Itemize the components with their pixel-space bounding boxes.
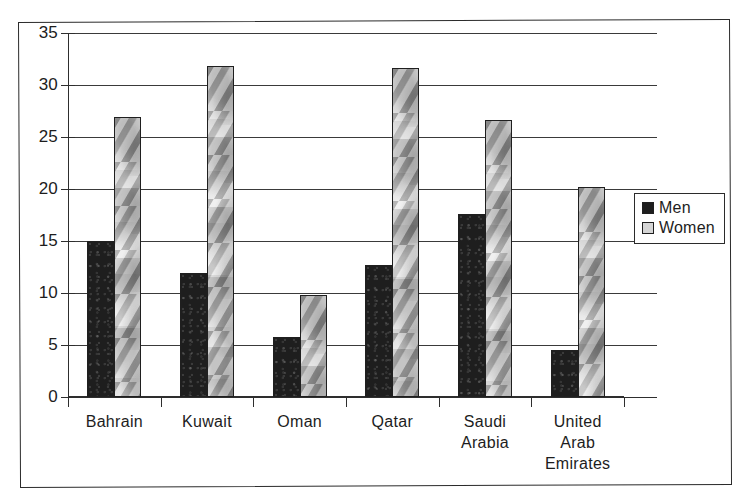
y-axis-label-15: 15: [22, 232, 58, 249]
legend-label-women: Women: [659, 220, 715, 236]
legend-swatch-men-icon: [642, 202, 654, 214]
x-tick-4: [439, 397, 440, 407]
gridline-0: [68, 397, 657, 398]
legend-item-women[interactable]: Women: [642, 220, 717, 236]
bar-women-bahrain: [114, 117, 141, 397]
bar-women-united-arab-emirates: [578, 187, 605, 397]
x-tick-2: [253, 397, 254, 407]
y-axis-label-30: 30: [22, 76, 58, 93]
bar-men-oman: [273, 337, 300, 397]
x-axis-label-oman: Oman: [253, 412, 346, 433]
plot-area: [68, 33, 624, 397]
x-axis-label-line: Bahrain: [68, 412, 161, 433]
x-axis-label-united-arab-emirates: UnitedArabEmirates: [531, 412, 624, 474]
bar-men-saudi-arabia: [458, 214, 485, 397]
x-tick-1: [161, 397, 162, 407]
x-tick-3: [346, 397, 347, 407]
chart-page: 05101520253035 BahrainKuwaitOmanQatarSau…: [0, 0, 744, 502]
x-axis-label-line: United: [531, 412, 624, 433]
x-axis-label-bahrain: Bahrain: [68, 412, 161, 433]
x-axis-label-kuwait: Kuwait: [161, 412, 254, 433]
x-tick-6: [624, 397, 625, 407]
chart-legend: Men Women: [634, 193, 725, 244]
y-axis-label-25: 25: [22, 128, 58, 145]
x-tick-5: [531, 397, 532, 407]
x-axis-label-line: Oman: [253, 412, 346, 433]
legend-swatch-women-icon: [642, 222, 654, 234]
y-axis-label-35: 35: [22, 24, 58, 41]
bar-men-kuwait: [180, 273, 207, 397]
x-axis-label-line: Saudi: [439, 412, 532, 433]
x-axis-label-line: Qatar: [346, 412, 439, 433]
x-axis-label-saudi-arabia: SaudiArabia: [439, 412, 532, 454]
legend-item-men[interactable]: Men: [642, 200, 717, 216]
x-axis-label-qatar: Qatar: [346, 412, 439, 433]
bar-men-bahrain: [87, 241, 114, 397]
x-axis-label-line: Kuwait: [161, 412, 254, 433]
y-axis-label-5: 5: [22, 336, 58, 353]
y-axis-label-20: 20: [22, 180, 58, 197]
legend-label-men: Men: [659, 200, 691, 216]
bar-women-qatar: [392, 68, 419, 397]
x-axis-label-line: Emirates: [531, 454, 624, 475]
bar-women-saudi-arabia: [485, 120, 512, 397]
x-tick-0: [68, 397, 69, 407]
x-axis-label-line: Arab: [531, 433, 624, 454]
x-axis-label-line: Arabia: [439, 433, 532, 454]
y-axis-label-10: 10: [22, 284, 58, 301]
bar-men-qatar: [365, 265, 392, 397]
bar-women-oman: [300, 295, 327, 397]
bar-men-united-arab-emirates: [551, 350, 578, 397]
y-axis-label-0: 0: [22, 388, 58, 405]
bar-women-kuwait: [207, 66, 234, 397]
